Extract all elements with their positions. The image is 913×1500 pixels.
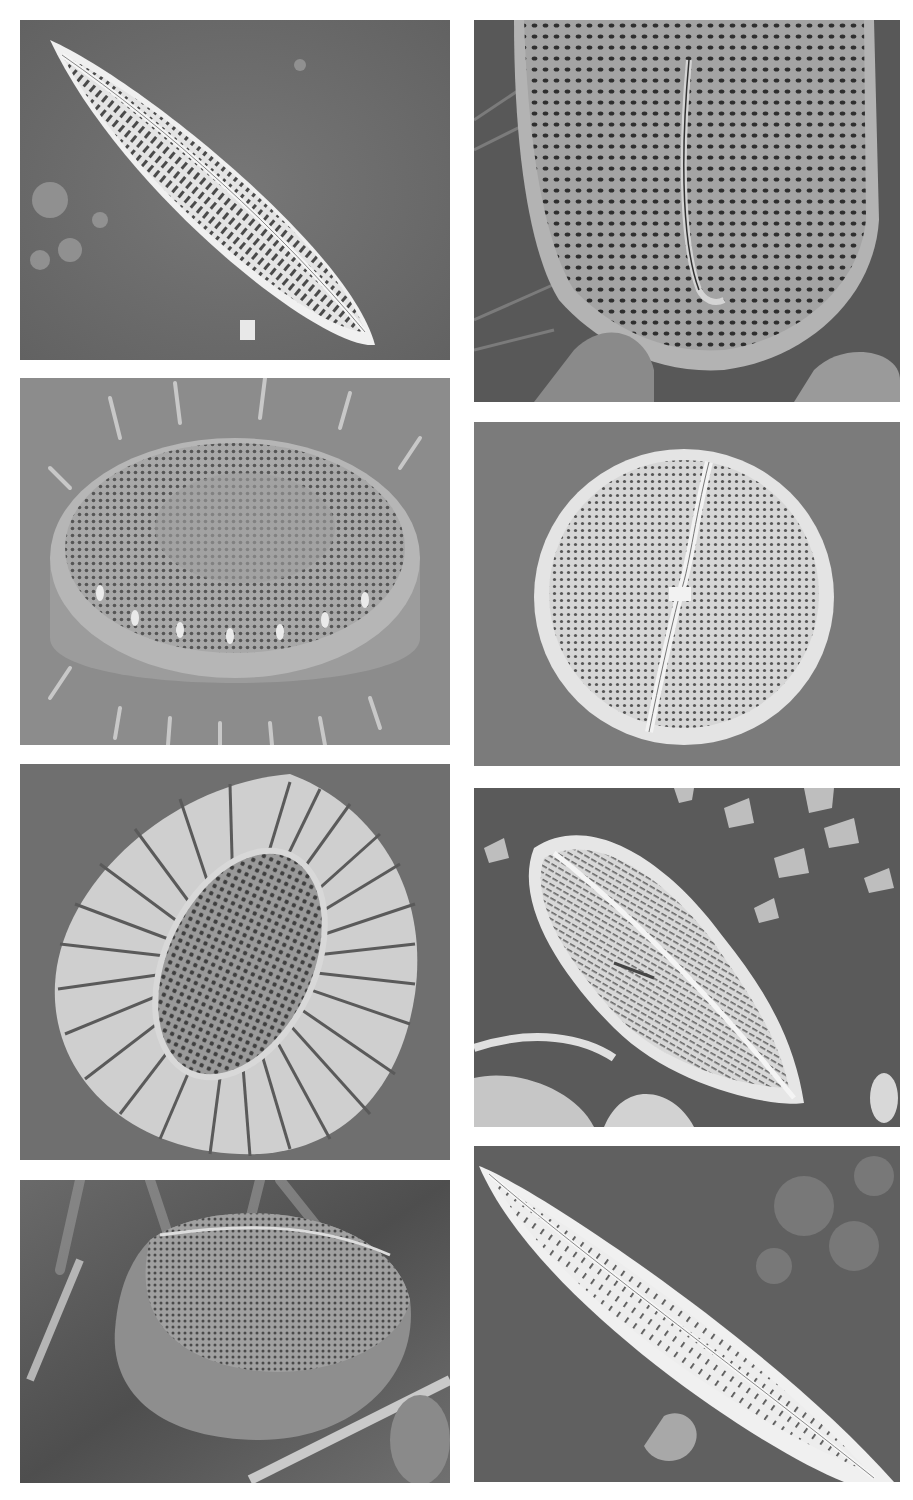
valve-apex-closeup-image bbox=[474, 20, 900, 402]
micrograph-panel-R3 bbox=[474, 788, 900, 1127]
circular-raphid-diatom-image bbox=[474, 422, 900, 766]
micrograph-panel-L1 bbox=[20, 20, 450, 360]
micrograph-panel-L3 bbox=[20, 764, 450, 1160]
lanceolate-diatom-image bbox=[474, 1146, 900, 1482]
micrograph-panel-L4 bbox=[20, 1180, 450, 1483]
micrograph-panel-R1 bbox=[474, 20, 900, 402]
cymbelloid-diatom-image bbox=[474, 788, 900, 1127]
micrograph-panel-R4 bbox=[474, 1146, 900, 1482]
radiate-valve-diatom-image bbox=[20, 764, 450, 1160]
spiny-centric-diatom-image bbox=[20, 378, 450, 745]
girdle-view-diatom-image bbox=[20, 1180, 450, 1483]
pennate-diatom-image bbox=[20, 20, 450, 360]
micrograph-panel-L2 bbox=[20, 378, 450, 745]
micrograph-panel-R2 bbox=[474, 422, 900, 766]
